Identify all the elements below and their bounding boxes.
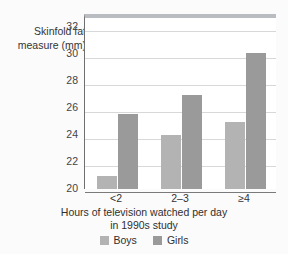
bar-girls-1 bbox=[182, 95, 202, 189]
bar-boys-2 bbox=[225, 122, 245, 189]
y-axis-tick-label: 28 bbox=[52, 74, 78, 86]
bar-boys-1 bbox=[161, 135, 181, 189]
bar-girls-2 bbox=[246, 53, 266, 189]
legend-label: Boys bbox=[114, 234, 137, 246]
x-axis-title-line-2: in 1990s study bbox=[0, 219, 288, 232]
y-axis-tick-label: 24 bbox=[52, 128, 78, 140]
x-axis-tick-label: 2–3 bbox=[150, 192, 210, 204]
legend-swatch-icon bbox=[153, 236, 162, 245]
bar-chart-figure: Skinfold fat measure (mm) 20222426283032… bbox=[0, 0, 288, 254]
x-axis-tick-label: ≥4 bbox=[214, 192, 274, 204]
y-axis-tick-label: 20 bbox=[52, 182, 78, 194]
plot-inner bbox=[85, 18, 276, 189]
y-axis-tick-label: 32 bbox=[52, 20, 78, 32]
y-axis-tick-label: 22 bbox=[52, 155, 78, 167]
chart-legend: BoysGirls bbox=[0, 234, 288, 246]
plot-area bbox=[84, 14, 276, 189]
y-axis-tick-label: 26 bbox=[52, 101, 78, 113]
x-axis-title: Hours of television watched per day in 1… bbox=[0, 206, 288, 232]
legend-label: Girls bbox=[167, 234, 189, 246]
bar-boys-0 bbox=[97, 176, 117, 189]
x-axis-title-line-1: Hours of television watched per day bbox=[0, 206, 288, 219]
x-axis-tick-label: <2 bbox=[86, 192, 146, 204]
legend-swatch-icon bbox=[100, 236, 109, 245]
legend-item-girls[interactable]: Girls bbox=[153, 234, 189, 246]
legend-item-boys[interactable]: Boys bbox=[100, 234, 137, 246]
bar-girls-0 bbox=[118, 114, 138, 189]
gridline bbox=[85, 31, 276, 32]
y-axis-tick-label: 30 bbox=[52, 47, 78, 59]
